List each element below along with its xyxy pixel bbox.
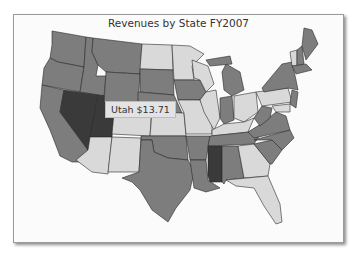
- state-maryland[interactable]: [272, 104, 290, 112]
- state-maine[interactable]: [302, 28, 318, 60]
- state-michigan-up[interactable]: [206, 56, 232, 66]
- us-states-map: [0, 0, 358, 253]
- state-massachusetts[interactable]: [292, 64, 312, 74]
- state-north-dakota[interactable]: [140, 44, 173, 70]
- state-new-mexico[interactable]: [108, 137, 141, 172]
- state-florida[interactable]: [226, 176, 282, 224]
- state-tooltip: Utah $13.71: [105, 101, 176, 118]
- state-michigan[interactable]: [222, 64, 244, 96]
- state-montana[interactable]: [92, 38, 142, 74]
- state-indiana[interactable]: [220, 96, 234, 124]
- state-pennsylvania[interactable]: [256, 88, 292, 106]
- state-new-jersey[interactable]: [290, 90, 298, 108]
- state-south-dakota[interactable]: [140, 69, 174, 95]
- state-wyoming[interactable]: [104, 72, 140, 104]
- state-mississippi[interactable]: [208, 146, 222, 182]
- state-arkansas[interactable]: [186, 136, 210, 160]
